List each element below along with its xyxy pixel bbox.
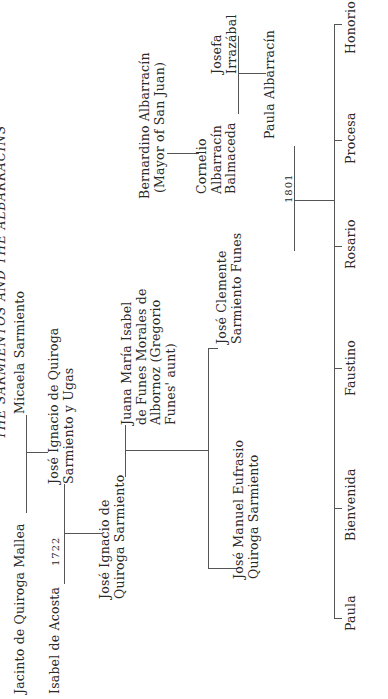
marriage-line-jacinto-micaela: [26, 415, 27, 513]
diagram-title: THE SARMIENTOS AND THE ALBARRACINS: [0, 125, 9, 439]
child-tick-rosario: [334, 246, 342, 247]
descent-line-1801: [294, 200, 334, 201]
child-tick-paula: [334, 618, 342, 619]
child-tick-jose-clemente: [208, 348, 218, 349]
person-cornelio-albarracin: Cornelio Albarracín Balmaceda: [195, 122, 239, 194]
sibling-line-gen4: [208, 349, 209, 569]
child-tick-faustino: [334, 368, 342, 369]
sibling-line-gen5: [334, 25, 335, 619]
person-micaela: Micaela Sarmiento: [13, 291, 28, 414]
person-bernardino-albarracin: Bernardino Albarracín (Mayor of San Juan…: [138, 52, 167, 199]
marriage-line-jose-clemente-paula: [294, 146, 295, 251]
child-rosario: Rosario: [344, 219, 359, 269]
person-jose-ignacio-quiroga-sarmiento: José Ignacio de Quiroga Sarmiento: [98, 475, 127, 599]
person-juana-maria-isabel: Juana María Isabel de Funes Morales de A…: [120, 288, 178, 425]
marriage-line-jose-ignacio-juana: [125, 425, 126, 477]
marriage-line-isabel-jose-ignacio: [64, 484, 65, 584]
child-tick-procesa: [334, 140, 342, 141]
person-jose-clemente: José Clemente Sarmiento Funes: [215, 233, 244, 344]
person-jacinto: Jacinto de Quiroga Mallea: [13, 523, 28, 694]
marriage-year-1722: 1722: [49, 537, 64, 566]
child-tick-honorio: [334, 24, 342, 25]
person-josefa-irrazabal: Josefa Irrazábal: [210, 14, 239, 74]
child-faustino: Faustino: [344, 340, 359, 396]
person-jose-ignacio-ugas: José Ignacio de Quiroga Sarmiento y Ugas: [47, 328, 76, 485]
child-honorio: Honorio: [344, 1, 359, 54]
person-paula-albarracin: Paula Albarracín: [263, 30, 278, 139]
person-jose-manuel-eufrasio: José Manuel Eufrasio Quiroga Sarmiento: [232, 440, 261, 579]
child-paula: Paula: [344, 595, 359, 631]
person-isabel-de-acosta: Isabel de Acosta: [48, 587, 63, 694]
child-tick-bienvenida: [334, 508, 342, 509]
descent-line-gen1: [26, 452, 48, 453]
child-procesa: Procesa: [344, 112, 359, 164]
descent-line-gen3: [125, 450, 208, 451]
family-tree-diagram: THE SARMIENTOS AND THE ALBARRACINS Jacin…: [0, 0, 388, 699]
child-bienvenida: Bienvenida: [344, 468, 359, 541]
